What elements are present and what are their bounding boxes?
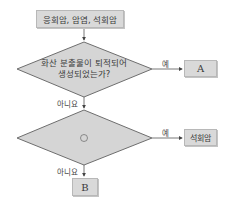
result-b-label: B <box>81 182 88 193</box>
decision1-line1: 화산 분출물이 퇴적되어 <box>34 58 134 69</box>
start-box: 응회암, 암염, 석회암 <box>36 10 124 28</box>
result-b-box: B <box>72 178 98 196</box>
flowchart-lines <box>0 0 230 204</box>
decision1-line2: 생성되었는가? <box>34 69 134 80</box>
start-box-label: 응회암, 암염, 석회암 <box>43 13 118 25</box>
decision2-yes-label: 예 <box>162 127 169 138</box>
result-limestone-label: 석회암 <box>190 132 211 143</box>
decision1-no-label: 아니요 <box>57 98 78 109</box>
decision1-yes-label: 예 <box>162 58 169 69</box>
decision2-no-label: 아니요 <box>57 166 78 177</box>
decision2-diamond <box>17 110 152 165</box>
decision1-text: 화산 분출물이 퇴적되어 생성되었는가? <box>34 58 134 80</box>
result-a-box: A <box>184 60 217 77</box>
result-a-label: A <box>197 63 204 74</box>
result-limestone-box: 석회암 <box>184 129 217 146</box>
